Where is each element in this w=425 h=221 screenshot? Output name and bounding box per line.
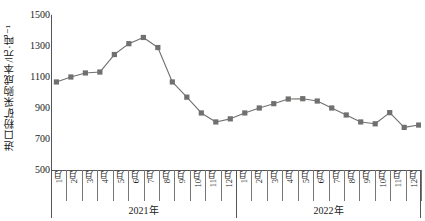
data-point-marker: 7月: 945	[315, 98, 320, 103]
data-point-marker: 7月: 1355	[141, 35, 146, 40]
x-axis-month-cell: 4月	[283, 170, 298, 201]
data-point-marker: 11月: 798	[373, 121, 378, 126]
x-axis-month-label: 12月	[225, 170, 234, 189]
y-axis-tick-labels: 150013001100900700500	[18, 0, 50, 180]
x-axis-month-cell: 9月	[360, 170, 375, 201]
x-axis-month-label: 2月	[70, 170, 79, 184]
x-axis-month-label: 5月	[302, 170, 311, 184]
x-axis-month-cell: 10月	[191, 170, 206, 201]
x-axis-year-labels: 2021年2022年	[51, 200, 421, 218]
year-group-divider	[51, 170, 52, 218]
data-point-marker: 2月: 868	[242, 110, 247, 115]
plot-area: 1月: 10682月: 11003月: 11264月: 11325月: 1245…	[51, 10, 421, 175]
data-line	[56, 37, 418, 127]
x-axis-month-label: 4月	[101, 170, 110, 184]
x-axis-month-cell: 3月	[268, 170, 283, 201]
data-point-marker: 10月: 970	[184, 95, 189, 100]
data-point-marker: 9月: 1068	[170, 79, 175, 84]
x-axis-month-label: 1月	[240, 170, 249, 184]
x-axis-year-label: 2021年	[51, 200, 236, 218]
x-axis-month-label: 7月	[147, 170, 156, 184]
x-axis-month-cell: 11月	[391, 170, 406, 201]
data-point-marker: 4月: 1132	[97, 69, 102, 74]
y-tick-label: 900	[20, 103, 50, 113]
x-axis-month-label: 4月	[286, 170, 295, 184]
x-axis-month-cell: 12月	[222, 170, 237, 201]
year-group-divider	[236, 170, 237, 218]
x-axis-month-label: 10月	[379, 170, 388, 189]
data-point-marker: 2月: 1100	[68, 74, 73, 79]
chart-container: 进口粉矿采购成本/元·吨⁻¹ 150013001100900700500 1月:…	[0, 0, 425, 221]
x-axis-month-cell: 5月	[299, 170, 314, 201]
y-tick-label: 1100	[20, 72, 50, 82]
year-label-text: 2022年	[314, 202, 344, 217]
y-tick-label: 1500	[20, 10, 50, 20]
x-axis-month-label: 8月	[163, 170, 172, 184]
x-axis-month-label: 2月	[255, 170, 264, 184]
y-tick-label: 700	[20, 134, 50, 144]
x-axis-month-cell: 8月	[160, 170, 175, 201]
x-axis-month-label: 9月	[178, 170, 187, 184]
data-point-marker: 6月: 960	[300, 96, 305, 101]
y-axis-title-text: 进口粉矿采购成本/元·吨⁻¹	[5, 25, 16, 151]
year-group-divider-end	[420, 170, 421, 218]
x-axis-month-cell: 3月	[83, 170, 98, 201]
x-axis-month-label: 6月	[132, 170, 141, 184]
y-tick-label: 500	[20, 165, 50, 175]
x-axis-month-label: 1月	[55, 170, 64, 184]
x-axis-month-label: 10月	[194, 170, 203, 189]
x-axis-month-cell: 10月	[376, 170, 391, 201]
data-point-marker: 3月: 900	[257, 105, 262, 110]
x-axis-month-cell: 7月	[145, 170, 160, 201]
data-point-marker: 4月: 928	[271, 101, 276, 106]
x-axis-month-cell: 1月	[52, 170, 67, 201]
data-point-marker: 6月: 1315	[126, 41, 131, 46]
x-axis-month-label: 8月	[348, 170, 357, 184]
x-axis-month-label: 11月	[209, 170, 218, 188]
x-axis-month-cell: 9月	[175, 170, 190, 201]
data-point-marker: 8月: 1290	[155, 45, 160, 50]
data-point-marker: 10月: 810	[358, 119, 363, 124]
x-axis-month-label: 3月	[271, 170, 280, 184]
x-axis-month-cell: 4月	[98, 170, 113, 201]
data-point-marker: 12月: 790	[416, 122, 421, 127]
year-label-text: 2021年	[129, 202, 159, 217]
data-point-marker: 9月: 855	[344, 112, 349, 117]
x-axis-month-cell: 2月	[67, 170, 82, 201]
x-axis-month-cell: 2月	[252, 170, 267, 201]
data-point-marker: 5月: 1245	[112, 52, 117, 57]
x-axis-month-cell: 6月	[129, 170, 144, 201]
data-point-marker: 12月: 870	[387, 110, 392, 115]
data-point-marker: 1月: 1068	[54, 79, 59, 84]
x-axis-month-label: 5月	[117, 170, 126, 184]
x-axis-month-label: 6月	[317, 170, 326, 184]
x-axis-month-cell: 6月	[314, 170, 329, 201]
x-axis-month-label: 11月	[394, 170, 403, 188]
x-axis-month-cell: 11月	[206, 170, 221, 201]
x-axis-month-cell: 8月	[345, 170, 360, 201]
x-axis-month-cell: 1月	[237, 170, 252, 201]
x-axis-month-label: 12月	[410, 170, 419, 189]
x-axis-month-label: 7月	[333, 170, 342, 184]
data-point-marker: 11月: 868	[199, 110, 204, 115]
axis-lines	[51, 15, 421, 171]
data-point-marker: 5月: 958	[286, 96, 291, 101]
data-point-marker: 12月: 810	[213, 119, 218, 124]
x-axis-month-label: 3月	[86, 170, 95, 184]
line-chart-svg: 1月: 10682月: 11003月: 11264月: 11325月: 1245…	[51, 10, 421, 175]
y-axis-title: 进口粉矿采购成本/元·吨⁻¹	[0, 0, 20, 175]
x-axis-month-cell: 7月	[330, 170, 345, 201]
x-axis-month-label: 9月	[363, 170, 372, 184]
data-point-marker: 3月: 1126	[83, 70, 88, 75]
y-tick-label: 1300	[20, 41, 50, 51]
data-point-marker: 12月: 775	[402, 125, 407, 130]
data-point-marker: 1月: 830	[228, 116, 233, 121]
x-axis-month-cell: 5月	[114, 170, 129, 201]
data-point-marker: 8月: 900	[329, 105, 334, 110]
x-axis-year-label: 2022年	[236, 200, 421, 218]
